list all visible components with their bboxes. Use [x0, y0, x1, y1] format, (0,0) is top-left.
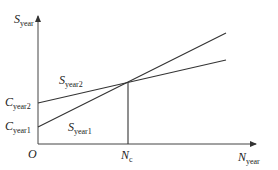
x-axis-label: Nyear: [238, 151, 260, 166]
crossover-nc-label: Nc: [121, 149, 133, 164]
intercept-c-year2-label: Cyear2: [5, 96, 31, 111]
break-even-diagram: Syear Nyear O Cyear2 Cyear1 Syear2 Syear…: [0, 0, 278, 170]
y-axis-label: Syear: [14, 13, 34, 28]
line-s-year2-label: Syear2: [59, 74, 83, 89]
diagram-graphics: [0, 0, 278, 170]
origin-label: O: [28, 148, 37, 160]
line-s-year1-label: Syear1: [68, 121, 92, 136]
intercept-c-year1-label: Cyear1: [5, 120, 31, 135]
